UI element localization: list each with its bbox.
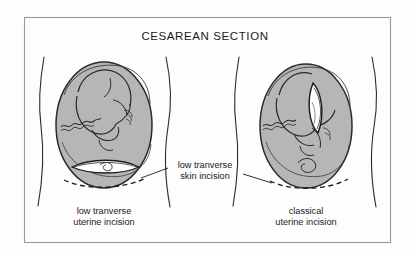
callout-line1: low tranverse bbox=[178, 160, 233, 170]
left-caption-line2: uterine incision bbox=[73, 217, 134, 227]
figure-canvas: CESAREAN SECTION bbox=[0, 0, 410, 256]
right-caption-line2: uterine incision bbox=[275, 217, 336, 227]
uterus-outline-right bbox=[260, 64, 352, 188]
callout-line2: skin incision bbox=[180, 171, 230, 181]
figure-title: CESAREAN SECTION bbox=[141, 30, 268, 42]
cesarean-section-figure: CESAREAN SECTION bbox=[0, 0, 410, 256]
left-caption-line1: low tranverse bbox=[77, 206, 132, 216]
right-caption-line1: classical bbox=[289, 206, 324, 216]
